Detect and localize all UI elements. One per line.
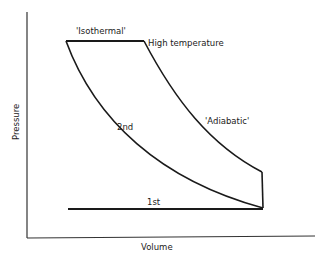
x-axis-label: Volume: [141, 242, 173, 252]
second-label: 2nd: [117, 122, 133, 132]
adiabatic-label: 'Adiabatic': [205, 116, 249, 126]
y-axis-label: Pressure: [11, 104, 21, 140]
x-axis: [27, 236, 315, 238]
pv-diagram: 'Isothermal' High temperature 'Adiabatic…: [0, 0, 328, 259]
first-label: 1st: [147, 197, 161, 207]
adiabatic-curve: [144, 41, 262, 172]
high-temperature-label: High temperature: [148, 38, 224, 48]
isothermal-label: 'Isothermal': [76, 26, 126, 36]
vertical-segment: [262, 172, 263, 208]
